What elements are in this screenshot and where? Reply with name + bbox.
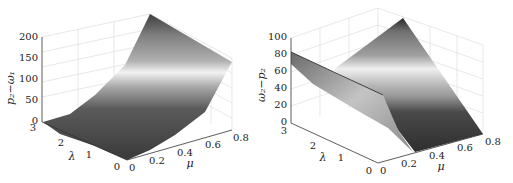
right-plot-canvas: 100 80 60 40 20 0 ω₂−p₂ 3 2 1 0 λ 0 0.2 … xyxy=(253,0,513,183)
y-tick: 3 xyxy=(281,125,287,136)
z-tick: 40 xyxy=(274,82,287,93)
left-surface-plot: 200 150 100 50 0 p₂−ω₁ 3 2 1 0 λ 0 0.2 0… xyxy=(0,0,256,183)
z-tick: 60 xyxy=(274,65,287,76)
x-tick: 0 xyxy=(129,162,135,173)
left-z-ticks: 200 150 100 50 0 xyxy=(19,31,38,126)
z-tick: 80 xyxy=(274,48,287,59)
x-tick: 0.8 xyxy=(233,132,249,143)
x-tick: 0.2 xyxy=(401,158,417,169)
right-z-axis-label: ω₂−p₂ xyxy=(255,68,268,102)
left-plot-canvas: 200 150 100 50 0 p₂−ω₁ 3 2 1 0 λ 0 0.2 0… xyxy=(0,0,256,183)
left-y-axis-label: λ xyxy=(68,150,76,163)
x-tick: 0.8 xyxy=(485,136,501,147)
left-x-axis-label: μ xyxy=(186,157,193,170)
x-tick: 0 xyxy=(380,165,386,176)
y-tick: 0 xyxy=(366,165,372,176)
z-tick: 50 xyxy=(25,94,38,105)
x-tick: 0.6 xyxy=(205,139,221,150)
y-tick: 1 xyxy=(86,149,92,160)
y-tick: 0 xyxy=(114,161,120,172)
x-tick: 0.6 xyxy=(457,142,473,153)
y-tick: 1 xyxy=(338,152,344,163)
y-tick: 2 xyxy=(58,137,64,148)
z-tick: 150 xyxy=(19,52,38,63)
z-tick: 20 xyxy=(274,99,287,110)
z-tick: 100 xyxy=(19,73,38,84)
right-surface-plot: 100 80 60 40 20 0 ω₂−p₂ 3 2 1 0 λ 0 0.2 … xyxy=(253,0,509,183)
left-z-axis-label: p₂−ω₁ xyxy=(4,71,17,105)
right-z-ticks: 100 80 60 40 20 0 xyxy=(268,31,287,127)
x-tick: 0.2 xyxy=(149,155,165,166)
z-tick: 200 xyxy=(19,31,38,42)
z-tick: 100 xyxy=(268,31,287,42)
y-tick: 3 xyxy=(30,122,36,133)
right-x-axis-label: μ xyxy=(437,160,444,173)
y-tick: 2 xyxy=(310,140,316,151)
right-y-axis-label: λ xyxy=(319,151,327,164)
